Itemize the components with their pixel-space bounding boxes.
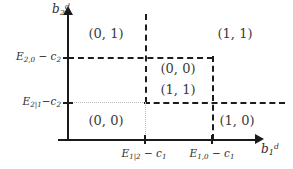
region-label-bottom-left: (0, 0) <box>89 114 124 127</box>
threshold-line-e12-vertical <box>145 14 147 103</box>
y-axis-label-base: b <box>52 2 60 16</box>
y-tick-upper-operator: − <box>35 50 50 62</box>
region-label-bottom-right: (1, 0) <box>220 114 255 127</box>
x-tick-label-1: E1|2 − c1 <box>121 148 166 160</box>
x-axis-line <box>58 139 258 141</box>
x-tick-2-base: E <box>190 147 198 159</box>
x-axis-label-base: b <box>261 142 269 156</box>
x-axis-label: b1d <box>261 143 279 156</box>
region-diagram-figure: b1d b2d E2,0 − c2 E2|1−c2 E1|2 − c1 E1,0… <box>0 0 293 169</box>
y-tick-label-lower: E2|1−c2 <box>0 96 61 108</box>
x-tick-mark-1 <box>144 135 146 144</box>
x-tick-1-term-sub: 1 <box>162 152 167 161</box>
y-tick-upper-base: E <box>16 50 24 62</box>
x-tick-2-operator: − <box>209 147 224 159</box>
y-tick-mark-lower <box>63 102 73 104</box>
x-tick-2-term-sub: 1 <box>230 152 235 161</box>
threshold-line-e20-horizontal <box>68 57 213 59</box>
region-label-top-left: (0, 1) <box>89 27 124 40</box>
x-tick-2-sub: 1,0 <box>197 152 208 161</box>
region-label-center-lower: (1, 1) <box>161 83 196 96</box>
y-axis-label-sup: d <box>65 2 70 11</box>
y-tick-lower-sub: 2|1 <box>30 100 41 109</box>
x-tick-label-2: E1,0 − c1 <box>190 148 235 160</box>
y-axis-line <box>67 14 69 141</box>
region-label-center-upper: (0, 0) <box>161 62 196 75</box>
y-tick-lower-operator: − <box>42 95 51 107</box>
threshold-line-e10-vertical <box>212 56 214 140</box>
x-axis-label-sup: d <box>274 142 279 151</box>
x-tick-1-sub: 1|2 <box>129 152 140 161</box>
y-tick-upper-term-sub: 2 <box>56 55 61 64</box>
y-tick-label-upper: E2,0 − c2 <box>0 51 61 63</box>
x-tick-mark-2 <box>211 135 213 144</box>
threshold-line-e21-horizontal-faint <box>68 102 145 103</box>
y-axis-label: b2d <box>52 3 70 16</box>
x-tick-1-base: E <box>121 147 129 159</box>
y-tick-mark-upper <box>63 57 73 59</box>
region-label-top-right: (1, 1) <box>218 27 253 40</box>
y-tick-upper-sub: 2,0 <box>24 55 35 64</box>
threshold-line-e21-horizontal <box>144 102 285 104</box>
y-tick-lower-term-sub: 2 <box>56 100 61 109</box>
x-tick-1-operator: − <box>141 147 156 159</box>
